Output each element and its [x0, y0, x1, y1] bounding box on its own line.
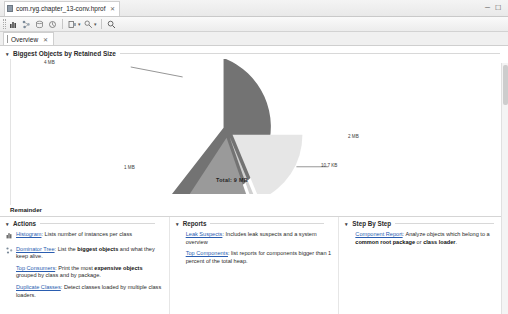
- minimize-button[interactable]: ─: [485, 4, 490, 12]
- link-dominator-tree[interactable]: Dominator Tree: [16, 246, 55, 252]
- list-item[interactable]: Component Report: Analyze objects which …: [345, 231, 502, 246]
- tab-overview[interactable]: Overview ✕: [3, 32, 54, 45]
- link-component-report[interactable]: Component Report: [355, 231, 402, 237]
- group-by-icon[interactable]: [67, 19, 78, 30]
- step-by-step-title: Step By Step: [352, 220, 391, 227]
- list-item[interactable]: Top Consumers: Print the most expensive …: [6, 265, 163, 280]
- pie-label-3: 1 MB: [124, 165, 135, 170]
- histogram-icon[interactable]: [8, 19, 19, 30]
- pie-chart-area: 4 MB 2 MB 10.7 KB 1 MB Total: 9 MB: [10, 59, 500, 205]
- emphasis-expensive-objects: expensive objects: [94, 265, 142, 271]
- tab-overview-close-icon[interactable]: ✕: [43, 36, 48, 43]
- list-item[interactable]: Duplicate Classes: Detect classes loaded…: [6, 284, 163, 299]
- panel-step-by-step: ▾ Step By Step Component Report: Analyze…: [338, 217, 508, 314]
- overview-panels: ▾ Actions Histogram: Lists number of ins…: [0, 216, 508, 314]
- list-item-text: Component Report: Analyze objects which …: [355, 231, 502, 246]
- window-title-bar: com.ryg.chapter_13-conv.hprof ✕ ─ ☐: [0, 0, 508, 17]
- list-item[interactable]: Dominator Tree: List the biggest objects…: [6, 246, 163, 261]
- step-by-step-divider: [395, 223, 494, 224]
- vertical-scrollbar[interactable]: [501, 63, 508, 314]
- toolbar-separator: [62, 19, 63, 29]
- actions-divider: [40, 223, 155, 224]
- section-divider: [120, 53, 500, 54]
- section-title: Biggest Objects by Retained Size: [13, 50, 116, 57]
- maximize-button[interactable]: ☐: [495, 4, 501, 12]
- dominator-tree-icon: [6, 246, 13, 261]
- main-toolbar: ▾ ▾: [0, 17, 508, 32]
- tab-overview-label: Overview: [11, 36, 38, 43]
- list-item[interactable]: Top Components: list reports for compone…: [176, 250, 333, 265]
- link-histogram[interactable]: Histogram: [16, 231, 42, 237]
- reports-header[interactable]: ▾ Reports: [176, 220, 333, 227]
- list-item-text: Leak Suspects: Includes leak suspects an…: [186, 231, 333, 246]
- emphasis-class-loader: class loader: [423, 239, 455, 245]
- step-by-step-twisty-icon[interactable]: ▾: [345, 221, 348, 227]
- link-leak-suspects[interactable]: Leak Suspects: [186, 231, 223, 237]
- list-item-text: Top Consumers: Print the most expensive …: [16, 265, 163, 280]
- oql-icon[interactable]: [34, 19, 45, 30]
- heap-dump-icon: [7, 5, 13, 12]
- view-tab-bar: Overview ✕: [0, 32, 508, 46]
- toolbar-grip[interactable]: [3, 19, 6, 29]
- list-item-text: Duplicate Classes: Detect classes loaded…: [16, 284, 163, 299]
- list-item[interactable]: Histogram: Lists number of instances per…: [6, 231, 163, 242]
- overview-icon: [7, 35, 8, 43]
- query-browser-chevron-down-icon[interactable]: ▾: [94, 21, 97, 27]
- list-item-text: Dominator Tree: List the biggest objects…: [16, 246, 163, 261]
- document-tab-label: com.ryg.chapter_13-conv.hprof: [16, 5, 105, 12]
- list-item[interactable]: Leak Suspects: Includes leak suspects an…: [176, 231, 333, 246]
- collapse-twisty-icon[interactable]: ▾: [6, 51, 9, 57]
- document-tab[interactable]: com.ryg.chapter_13-conv.hprof ✕: [4, 1, 120, 16]
- reports-title: Reports: [183, 220, 207, 227]
- pie-label-0: 4 MB: [44, 60, 55, 65]
- reports-twisty-icon[interactable]: ▾: [176, 221, 179, 227]
- panel-reports: ▾ Reports Leak Suspects: Includes leak s…: [169, 217, 339, 314]
- vertical-scrollbar-thumb[interactable]: [503, 65, 508, 105]
- dominator-tree-icon[interactable]: [21, 19, 32, 30]
- memory-analyzer-window: com.ryg.chapter_13-conv.hprof ✕ ─ ☐ ▾: [0, 0, 508, 314]
- link-duplicate-classes[interactable]: Duplicate Classes: [16, 284, 61, 290]
- leader-line-0: [131, 67, 183, 77]
- pie-label-1: 2 MB: [348, 134, 359, 139]
- list-item-text: Histogram: Lists number of instances per…: [16, 231, 163, 242]
- overview-editor: ▾ Biggest Objects by Retained Size 4: [0, 46, 508, 314]
- query-browser-icon[interactable]: [83, 19, 94, 30]
- actions-header[interactable]: ▾ Actions: [6, 220, 163, 227]
- search-icon[interactable]: [106, 19, 117, 30]
- list-item-text: Top Components: list reports for compone…: [186, 250, 333, 265]
- list-item-desc: : Lists number of instances per class: [42, 231, 132, 237]
- thread-overview-icon[interactable]: [47, 19, 58, 30]
- step-by-step-header[interactable]: ▾ Step By Step: [345, 220, 502, 227]
- group-by-chevron-down-icon[interactable]: ▾: [78, 21, 81, 27]
- link-top-consumers[interactable]: Top Consumers: [16, 265, 55, 271]
- reports-divider: [210, 223, 324, 224]
- panel-actions: ▾ Actions Histogram: Lists number of ins…: [0, 217, 169, 314]
- retained-size-pie-chart[interactable]: [11, 59, 500, 194]
- actions-twisty-icon[interactable]: ▾: [6, 221, 9, 227]
- document-tab-close-icon[interactable]: ✕: [110, 5, 115, 12]
- histogram-icon: [6, 231, 13, 242]
- remainder-label: Remainder: [0, 205, 508, 216]
- toolbar-separator-2: [101, 19, 102, 29]
- actions-title: Actions: [13, 220, 36, 227]
- pie-total-label: Total: 9 MB: [216, 177, 248, 183]
- pie-label-2: 10.7 KB: [321, 163, 337, 168]
- emphasis-common-root-package: common root package: [355, 239, 415, 245]
- emphasis-biggest-objects: biggest objects: [77, 246, 118, 252]
- link-top-components[interactable]: Top Components: [186, 250, 228, 256]
- biggest-objects-section-header[interactable]: ▾ Biggest Objects by Retained Size: [0, 46, 508, 59]
- window-controls: ─ ☐: [485, 4, 504, 12]
